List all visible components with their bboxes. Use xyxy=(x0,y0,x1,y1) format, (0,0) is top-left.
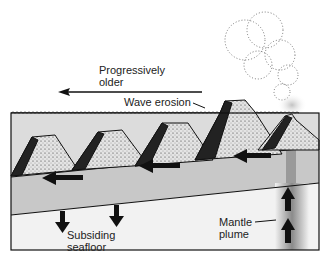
label-progressively-older: Progressively older xyxy=(99,64,165,88)
hotspot-diagram xyxy=(0,0,333,262)
label-subsiding-seafloor: Subsiding seafloor xyxy=(67,229,115,253)
label-line-2: older xyxy=(99,76,165,88)
wave-erosion-pointer xyxy=(193,103,205,108)
label-line-2: seafloor xyxy=(67,241,115,253)
age-arrow xyxy=(58,88,202,96)
label-mantle-plume: Mantle plume xyxy=(219,216,252,240)
label-line-2: plume xyxy=(219,228,252,240)
label-line-1: Progressively xyxy=(99,64,165,76)
eruption-plume xyxy=(225,12,298,100)
label-line-1: Subsiding xyxy=(67,229,115,241)
label-wave-erosion: Wave erosion xyxy=(124,96,191,108)
mantle-plume-column xyxy=(275,183,309,250)
label-line-1: Mantle xyxy=(219,216,252,228)
